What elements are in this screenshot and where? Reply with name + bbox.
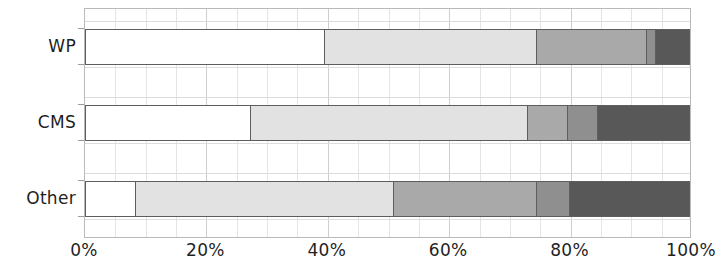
- x-axis-tick-label: 40%: [307, 240, 346, 260]
- horizontal-gridline: [85, 97, 690, 98]
- bar-segment[interactable]: [597, 105, 690, 141]
- bar-segment[interactable]: [536, 29, 646, 65]
- x-axis-tick-label: 20%: [186, 240, 225, 260]
- x-axis-tick-label: 0%: [70, 240, 98, 260]
- bar-segment[interactable]: [567, 105, 597, 141]
- bar-segment[interactable]: [324, 29, 536, 65]
- bar-segment[interactable]: [536, 181, 569, 217]
- horizontal-gridline: [85, 67, 690, 68]
- bar-segment[interactable]: [569, 181, 690, 217]
- y-axis-label-wp: WP: [2, 38, 76, 55]
- horizontal-gridline: [85, 143, 690, 144]
- y-axis-label-other: Other: [2, 190, 76, 207]
- y-axis-labels: WP CMS Other: [0, 8, 76, 238]
- bar-wp[interactable]: [85, 29, 690, 65]
- horizontal-gridline: [85, 219, 690, 220]
- bar-segment[interactable]: [646, 29, 655, 65]
- horizontal-gridline: [85, 173, 690, 174]
- bar-segment[interactable]: [527, 105, 567, 141]
- bar-segment[interactable]: [393, 181, 536, 217]
- bar-cms[interactable]: [85, 105, 690, 141]
- horizontal-gridline: [85, 21, 690, 22]
- bar-segment[interactable]: [655, 29, 690, 65]
- bar-segment[interactable]: [135, 181, 393, 217]
- bar-segment[interactable]: [85, 105, 250, 141]
- x-axis-tick-label: 100%: [666, 240, 716, 260]
- x-axis-tick-label: 80%: [550, 240, 589, 260]
- bar-other[interactable]: [85, 181, 690, 217]
- y-axis-label-cms: CMS: [2, 114, 76, 131]
- x-axis-tick-label: 60%: [429, 240, 468, 260]
- plot-area: [84, 8, 691, 238]
- bar-segment[interactable]: [85, 29, 324, 65]
- bar-segment[interactable]: [85, 181, 135, 217]
- bar-segment[interactable]: [250, 105, 528, 141]
- x-axis-labels: 0%20%40%60%80%100%: [84, 240, 691, 268]
